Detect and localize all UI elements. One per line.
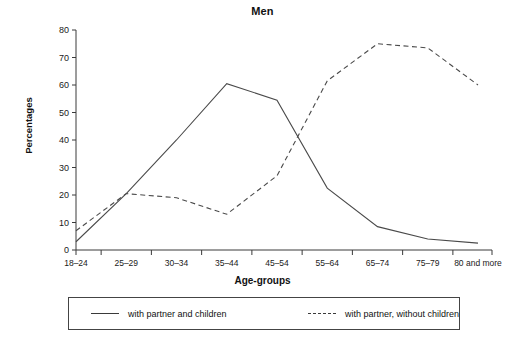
x-axis-label: Age-groups [0, 275, 525, 286]
chart-legend: with partner and children with partner, … [68, 297, 460, 330]
x-tick-label: 80 and more [454, 258, 502, 268]
x-axis: 18–2425–2930–3435–4445–5455–6465–7475–79… [64, 250, 502, 268]
data-series-group [76, 44, 478, 243]
x-tick-label: 65–74 [366, 258, 390, 268]
chart-container: Men Percentages 01020304050607080 18–242… [0, 0, 525, 342]
y-tick-label: 60 [59, 80, 69, 90]
series-line-with-partner-and-children [76, 84, 478, 244]
y-tick-label: 20 [59, 190, 69, 200]
y-tick-label: 0 [64, 245, 69, 255]
y-axis: 01020304050607080 [59, 25, 76, 255]
series-line-with-partner-without-children [76, 44, 478, 231]
legend-item-with-partner-without-children: with partner, without children [308, 309, 459, 319]
x-tick-label: 18–24 [64, 258, 88, 268]
legend-item-with-partner-and-children: with partner and children [91, 309, 302, 319]
x-tick-label: 45–54 [265, 258, 289, 268]
x-tick-label: 55–64 [315, 258, 339, 268]
legend-dashed-line-icon [308, 309, 336, 319]
x-tick-label: 75–79 [416, 258, 440, 268]
x-tick-label: 25–29 [114, 258, 138, 268]
legend-solid-line-icon [91, 309, 119, 319]
y-tick-label: 10 [59, 218, 69, 228]
x-tick-label: 30–34 [165, 258, 189, 268]
y-tick-label: 70 [59, 53, 69, 63]
x-tick-label: 35–44 [215, 258, 239, 268]
y-tick-label: 40 [59, 135, 69, 145]
y-tick-label: 80 [59, 25, 69, 35]
chart-plot: 01020304050607080 18–2425–2930–3435–4445… [0, 0, 525, 342]
y-tick-label: 50 [59, 108, 69, 118]
legend-label: with partner and children [128, 309, 227, 319]
legend-label: with partner, without children [345, 309, 459, 319]
y-tick-label: 30 [59, 163, 69, 173]
